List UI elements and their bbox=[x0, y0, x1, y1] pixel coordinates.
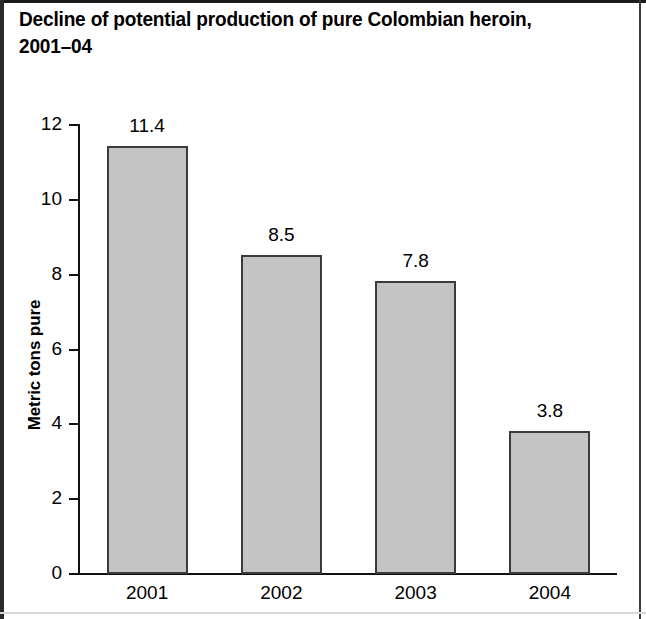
y-tick-mark bbox=[69, 423, 79, 425]
bar-value-label-2004: 3.8 bbox=[510, 401, 590, 420]
bar-2003 bbox=[375, 281, 456, 574]
bar-2001 bbox=[107, 146, 188, 574]
bar-value-label-2002: 8.5 bbox=[241, 225, 321, 244]
y-tick-6: 6 bbox=[0, 349, 79, 351]
y-tick-label: 0 bbox=[16, 563, 62, 582]
bar-value-label-2003: 7.8 bbox=[376, 251, 456, 270]
y-tick-4: 4 bbox=[0, 423, 79, 425]
bar-2004 bbox=[509, 431, 590, 574]
x-category-label-2003: 2003 bbox=[366, 583, 466, 602]
y-tick-label: 6 bbox=[16, 339, 62, 358]
plot-area: Metric tons pure 024681012 11.420018.520… bbox=[0, 0, 646, 619]
y-tick-label: 8 bbox=[16, 264, 62, 283]
y-tick-mark bbox=[69, 349, 79, 351]
y-tick-mark bbox=[69, 498, 79, 500]
chart-figure: Decline of potential production of pure … bbox=[0, 0, 646, 619]
y-tick-mark bbox=[69, 124, 79, 126]
bar-value-label-2001: 11.4 bbox=[107, 116, 187, 135]
y-tick-12: 12 bbox=[0, 124, 79, 126]
y-tick-0: 0 bbox=[0, 573, 79, 575]
y-tick-10: 10 bbox=[0, 199, 79, 201]
y-tick-label: 12 bbox=[16, 114, 62, 133]
x-category-label-2002: 2002 bbox=[231, 583, 331, 602]
x-category-label-2001: 2001 bbox=[97, 583, 197, 602]
y-tick-label: 2 bbox=[16, 488, 62, 507]
y-tick-label: 10 bbox=[16, 189, 62, 208]
y-tick-2: 2 bbox=[0, 498, 79, 500]
y-tick-mark bbox=[69, 274, 79, 276]
y-tick-label: 4 bbox=[16, 413, 62, 432]
bar-2002 bbox=[241, 255, 322, 574]
y-tick-mark bbox=[69, 573, 79, 575]
x-category-label-2004: 2004 bbox=[500, 583, 600, 602]
y-tick-mark bbox=[69, 199, 79, 201]
y-tick-8: 8 bbox=[0, 274, 79, 276]
